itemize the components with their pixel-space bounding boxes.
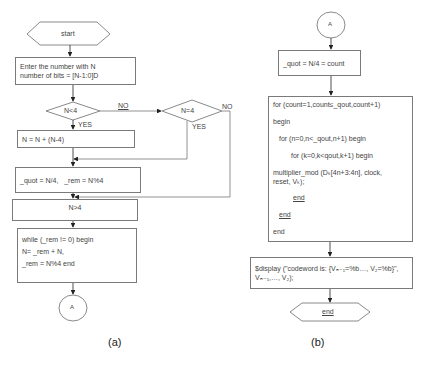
n-gt-4-text: N>4 (17, 203, 133, 212)
loop-box: for (count=1,count≤_qout,count+1) begin … (268, 96, 413, 242)
while-line-1: while (_rem != 0) begin (22, 234, 132, 246)
n-gt-4-box: N>4 (12, 199, 138, 221)
loop-line-9: end (273, 227, 408, 236)
input-box: Enter the number with N number of bits =… (15, 57, 136, 85)
decision1-label: N<4 (64, 107, 77, 114)
quot-count-box: _quot = N/4 = count (278, 50, 361, 76)
end-label: end (322, 308, 334, 315)
loop-line-8: end (273, 210, 408, 219)
loop-line-1: for (count=1,count≤_qout,count+1) (273, 100, 408, 109)
loop-line-7: end (273, 193, 408, 202)
input-line-1: Enter the number with N (20, 62, 131, 71)
quot-rem-box: _quot = N/4, _rem = N%4 (15, 167, 141, 193)
quot-text: _quot = N/4, (20, 177, 58, 184)
input-line-2: number of bits = [N-1:0]D (20, 71, 131, 80)
loop-line-4: for (k=0,k<qout,k+1) begin (273, 151, 408, 160)
adjust-text: N = N + (N-4) (22, 135, 130, 144)
connector-a-bottom-label: A (70, 304, 74, 310)
display-box: $display ("codeword is: {Vₙ₋₁=%b…, V₂=%b… (250, 257, 413, 289)
display-line-1: $display ("codeword is: {Vₙ₋₁=%b…, V₂=%b… (255, 264, 408, 273)
start-label: start (61, 30, 75, 37)
decision2-yes-label: YES (192, 123, 206, 130)
caption-b: (b) (311, 336, 324, 348)
decision2-label: N=4 (181, 107, 194, 114)
caption-a: (a) (108, 336, 121, 348)
loop-line-6: reset, Vₖ); (273, 177, 408, 186)
while-line-3: _rem = N%4 end (22, 258, 132, 270)
connector-a-top-label: A (328, 21, 332, 27)
loop-line-5: multiplier_mod (Dₖ[4n+3:4n], clock, (273, 168, 408, 177)
quot-count-text: _quot = N/4 = count (283, 59, 356, 68)
decision1-yes-label: YES (78, 121, 92, 128)
rem-text: _rem = N%4 (64, 177, 103, 184)
adjust-box: N = N + (N-4) (17, 130, 135, 148)
loop-line-2: begin (273, 117, 408, 126)
decision1-no-label: NO (118, 102, 129, 109)
while-box: while (_rem != 0) begin N= _rem + N, _re… (17, 228, 137, 283)
loop-line-3: for (n=0,n<_qout,n+1) begin (273, 134, 408, 143)
while-line-2: N= _rem + N, (22, 246, 132, 258)
display-line-2: Vₙ₋₁,…, V₂); (255, 273, 408, 282)
decision2-no-label: NO (222, 103, 233, 110)
